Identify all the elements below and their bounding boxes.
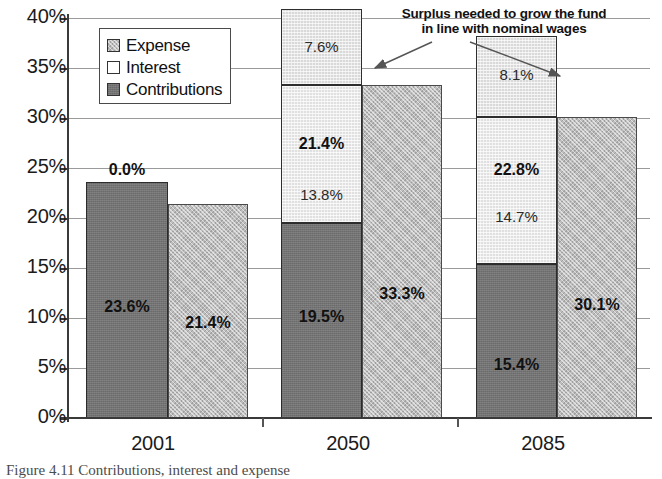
legend-label-expense: Expense bbox=[126, 37, 190, 54]
bar-label-2085-surplus: 8.1% bbox=[476, 66, 557, 83]
legend-swatch-interest-icon bbox=[107, 61, 120, 74]
legend-swatch-expense-icon bbox=[107, 39, 120, 52]
y-axis-label-35: 35% bbox=[6, 55, 66, 78]
x-axis-label-2001: 2001 bbox=[108, 432, 198, 455]
bar-2001-expense[interactable] bbox=[168, 204, 248, 418]
gap-label-2001: 0.0% bbox=[82, 161, 172, 179]
chart-legend[interactable]: Expense Interest Contributions bbox=[99, 28, 231, 104]
bar-2085-interest[interactable] bbox=[476, 117, 557, 264]
x-axis-label-2085: 2085 bbox=[498, 432, 588, 455]
annotation-line-2: in line with nominal wages bbox=[368, 21, 640, 36]
x-tick-2050-2085 bbox=[457, 418, 459, 427]
bar-2085-expense[interactable] bbox=[557, 117, 637, 418]
bar-label-2050-contributions: 19.5% bbox=[281, 308, 362, 326]
bar-label-2050-expense: 33.3% bbox=[362, 285, 442, 303]
y-axis-label-10: 10% bbox=[6, 305, 66, 328]
x-axis-label-2050: 2050 bbox=[303, 432, 393, 455]
gap-label-2085: 22.8% bbox=[476, 161, 557, 179]
y-axis-label-0: 0% bbox=[6, 405, 66, 428]
bar-2050-expense[interactable] bbox=[362, 85, 442, 418]
bar-2085-contributions[interactable] bbox=[476, 264, 557, 418]
bar-label-2085-contributions: 15.4% bbox=[476, 356, 557, 374]
x-tick-2001-2050 bbox=[262, 418, 264, 427]
bar-label-2085-interest: 14.7% bbox=[476, 208, 557, 225]
annotation-text: Surplus needed to grow the fund in line … bbox=[368, 6, 640, 36]
figure-caption: Figure 4.11 Contributions, interest and … bbox=[6, 462, 290, 479]
bar-label-2001-expense: 21.4% bbox=[168, 314, 248, 332]
y-axis-label-25: 25% bbox=[6, 155, 66, 178]
legend-label-contributions: Contributions bbox=[126, 81, 222, 98]
legend-label-interest: Interest bbox=[126, 59, 180, 76]
bar-label-2050-interest: 13.8% bbox=[281, 186, 362, 203]
legend-item-interest[interactable]: Interest bbox=[107, 56, 224, 78]
legend-swatch-contributions-icon bbox=[107, 83, 120, 96]
bar-label-2001-contributions: 23.6% bbox=[86, 298, 168, 316]
annotation-line-1: Surplus needed to grow the fund bbox=[368, 6, 640, 21]
gap-label-2050: 21.4% bbox=[281, 135, 362, 153]
legend-item-contributions[interactable]: Contributions bbox=[107, 78, 224, 100]
y-axis-label-15: 15% bbox=[6, 255, 66, 278]
bar-label-2050-surplus: 7.6% bbox=[281, 38, 362, 55]
y-axis-label-5: 5% bbox=[6, 355, 66, 378]
y-axis-label-30: 30% bbox=[6, 105, 66, 128]
y-axis-label-20: 20% bbox=[6, 205, 66, 228]
bar-label-2085-expense: 30.1% bbox=[557, 296, 637, 314]
x-axis-line bbox=[60, 417, 652, 419]
legend-item-expense[interactable]: Expense bbox=[107, 34, 224, 56]
y-axis-label-40: 40% bbox=[6, 5, 66, 28]
